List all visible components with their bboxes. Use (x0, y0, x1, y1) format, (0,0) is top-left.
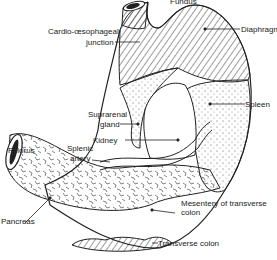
label-transverse-colon: Transverse colon (158, 239, 219, 248)
label-mesentery-2: colon (181, 208, 200, 217)
label-fundus: Fundus (170, 0, 197, 6)
label-kidney: Kidney (93, 136, 117, 145)
label-cardio-2: junction (85, 38, 114, 47)
label-suprarenal-2: gland (100, 120, 120, 129)
label-suprarenal-1: Suprarenal (88, 110, 127, 119)
stomach-bed-diagram: Fundus Cardio-œsophageal junction Diaphr… (0, 0, 277, 260)
label-splenic-2: artery (70, 154, 90, 163)
label-cardio-1: Cardio-œsophageal (48, 27, 119, 36)
label-spleen: Spleen (245, 100, 270, 109)
transverse-colon (72, 237, 172, 251)
label-pancreas: Pancreas (1, 217, 35, 226)
label-mesentery-1: Mesentery of transverse (181, 199, 267, 208)
label-pylorus: Pylorus (8, 146, 35, 155)
label-diaphragm: Diaphragm (241, 25, 277, 34)
label-splenic-1: Splenic (67, 144, 93, 153)
